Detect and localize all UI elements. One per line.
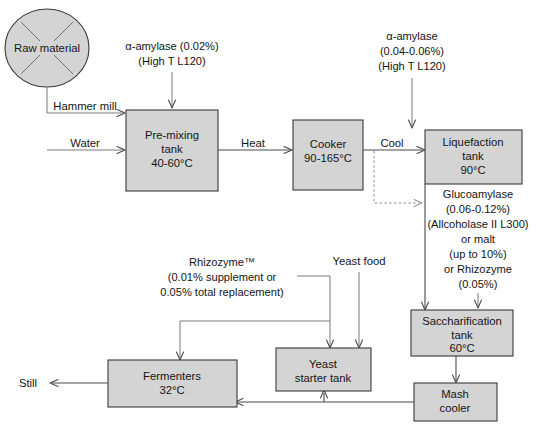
glucoamylase-line1: Glucoamylase xyxy=(443,188,513,200)
yeast-starter-tank-line2: starter tank xyxy=(295,372,352,384)
node-yeast-starter-tank: Yeast starter tank xyxy=(276,348,371,391)
alpha-amylase-1-line2: (High T L120) xyxy=(138,55,205,67)
node-raw-material: Raw material xyxy=(5,9,89,87)
flow-diagram-canvas: Raw material Hammer mill Water α-amylase… xyxy=(0,0,551,424)
cooker-line2: 90-165°C xyxy=(304,152,352,164)
process-flow-diagram: Raw material Hammer mill Water α-amylase… xyxy=(0,0,551,424)
alpha-amylase-2-line2: (0.04-0.06%) xyxy=(380,45,444,57)
pre-mixing-tank-line2: tank xyxy=(161,143,183,155)
edge-label-hammer-mill: Hammer mill xyxy=(53,100,116,112)
saccharification-tank-line3: 60°C xyxy=(449,342,474,354)
rhizozyme-line1: Rhizozyme™ xyxy=(189,256,255,268)
glucoamylase-line7: (0.05%) xyxy=(459,278,498,290)
glucoamylase-line5: (up to 10%) xyxy=(449,248,506,260)
mash-cooler-line1: Mash xyxy=(441,388,469,400)
liquefaction-tank-line3: 90°C xyxy=(460,164,485,176)
liquefaction-tank-line2: tank xyxy=(462,150,484,162)
glucoamylase-line6: or Rhizozyme xyxy=(444,263,512,275)
saccharification-tank-line1: Saccharification xyxy=(422,315,502,327)
line-bypass-dotted xyxy=(374,151,419,203)
glucoamylase-line4: or malt xyxy=(461,233,495,245)
alpha-amylase-1-line1: α-amylase (0.02%) xyxy=(125,40,218,52)
alpha-amylase-2-line1: α-amylase xyxy=(386,30,437,42)
glucoamylase-line3: (Allcoholase II L300) xyxy=(427,218,528,230)
rhizozyme-line2: (0.01% supplement or xyxy=(168,271,277,283)
mash-cooler-line2: cooler xyxy=(440,402,471,414)
alpha-amylase-2-line3: (High T L120) xyxy=(378,60,445,72)
glucoamylase-line2: (0.06-0.12%) xyxy=(446,203,510,215)
node-fermenters: Fermenters 32°C xyxy=(108,360,237,407)
saccharification-tank-line2: tank xyxy=(451,329,473,341)
fermenters-line2: 32°C xyxy=(159,384,184,396)
node-liquefaction-tank: Liquefaction tank 90°C xyxy=(425,130,522,184)
annotation-glucoamylase: Glucoamylase (0.06-0.12%) (Allcoholase I… xyxy=(427,188,528,308)
pre-mixing-tank-line1: Pre-mixing xyxy=(145,129,199,141)
liquefaction-tank-line1: Liquefaction xyxy=(443,136,504,148)
annotation-alpha-amylase-1: α-amylase (0.02%) (High T L120) xyxy=(125,40,218,108)
annotation-alpha-amylase-2: α-amylase (0.04-0.06%) (High T L120) xyxy=(378,30,445,128)
raw-material-label: Raw material xyxy=(14,42,80,54)
edge-label-still: Still xyxy=(19,377,37,389)
node-cooker: Cooker 90-165°C xyxy=(293,120,363,190)
cooker-line1: Cooker xyxy=(310,138,347,150)
node-pre-mixing-tank: Pre-mixing tank 40-60°C xyxy=(126,110,218,191)
pre-mixing-tank-line3: 40-60°C xyxy=(151,157,193,169)
fermenters-line1: Fermenters xyxy=(143,370,201,382)
edge-label-cool: Cool xyxy=(380,137,403,149)
edge-label-yeast-food: Yeast food xyxy=(333,255,386,267)
rhizozyme-line3: 0.05% total replacement) xyxy=(160,286,283,298)
annotation-rhizozyme: Rhizozyme™ (0.01% supplement or 0.05% to… xyxy=(160,256,333,360)
annotation-yeast-food: Yeast food xyxy=(333,255,386,348)
yeast-starter-tank-line1: Yeast xyxy=(309,358,338,370)
node-mash-cooler: Mash cooler xyxy=(414,383,497,421)
node-saccharification-tank: Saccharification tank 60°C xyxy=(411,310,513,356)
edge-label-heat: Heat xyxy=(241,137,266,149)
edge-label-water: Water xyxy=(70,137,100,149)
